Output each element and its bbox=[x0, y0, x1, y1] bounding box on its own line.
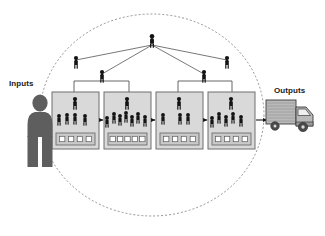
figure-leg-right bbox=[60, 122, 61, 125]
figure-torso bbox=[74, 60, 78, 65]
figure-leg-right bbox=[133, 123, 134, 126]
inputs-label: Inputs bbox=[9, 79, 34, 88]
figure-head bbox=[186, 113, 190, 117]
figure-leg-left bbox=[105, 124, 106, 127]
workstation-2-machine-1 bbox=[110, 136, 115, 141]
workstation-2-machine-2 bbox=[117, 136, 122, 141]
figure-leg-right bbox=[139, 120, 140, 123]
executive-figure bbox=[150, 34, 155, 48]
figure-torso bbox=[100, 74, 104, 79]
workstation-4-machine-4 bbox=[242, 136, 247, 141]
figure-torso bbox=[83, 117, 86, 122]
connector-exec-to-supervisor-left bbox=[102, 45, 152, 74]
workstation-2-machine-3 bbox=[125, 136, 130, 141]
figure-head bbox=[57, 114, 61, 118]
figure-leg-left bbox=[65, 121, 66, 124]
workstation-4-machine-3 bbox=[233, 136, 238, 141]
figure-head bbox=[65, 113, 69, 117]
figure-leg-left bbox=[231, 120, 232, 123]
figure-torso bbox=[210, 119, 213, 124]
workstation-1-machine-1 bbox=[59, 136, 64, 141]
figure-torso bbox=[186, 116, 189, 121]
figure-leg-right bbox=[228, 65, 229, 69]
figure-leg-right bbox=[128, 106, 129, 110]
workstation-4-machine-1 bbox=[215, 136, 220, 141]
figure-leg-right bbox=[181, 121, 182, 124]
figure-torso bbox=[224, 118, 227, 123]
figure-leg-right bbox=[76, 121, 77, 124]
figure-leg-right bbox=[213, 124, 214, 127]
figure-head bbox=[124, 111, 128, 115]
figure-leg-left bbox=[150, 44, 151, 48]
figure-head bbox=[74, 56, 78, 60]
delivery-truck-icon bbox=[266, 100, 313, 132]
figure-leg-left bbox=[73, 121, 74, 124]
figure-head bbox=[83, 114, 87, 118]
input-leg-left bbox=[28, 136, 39, 167]
figure-torso bbox=[229, 101, 233, 106]
figure-torso bbox=[73, 116, 76, 121]
figure-head bbox=[130, 115, 134, 119]
figure-leg-left bbox=[217, 120, 218, 123]
workstation-1-machine-4 bbox=[86, 136, 91, 141]
figure-leg-right bbox=[108, 124, 109, 127]
figure-leg-left bbox=[143, 123, 144, 126]
figure-torso bbox=[217, 115, 220, 120]
input-leg-right bbox=[42, 136, 53, 167]
figure-head bbox=[112, 112, 116, 116]
figure-leg-left bbox=[186, 121, 187, 124]
figure-leg-right bbox=[76, 106, 77, 110]
figure-leg-left bbox=[125, 106, 126, 110]
workstation-4-machine-2 bbox=[224, 136, 229, 141]
figure-torso bbox=[57, 117, 60, 122]
input-person-icon bbox=[28, 94, 53, 167]
figure-torso bbox=[125, 101, 129, 106]
connector-exec-to-supervisor-right bbox=[152, 45, 204, 74]
figure-leg-left bbox=[224, 123, 225, 126]
connector-exec-to-manager-far-left bbox=[76, 45, 152, 60]
figure-head bbox=[224, 115, 228, 119]
figure-leg-left bbox=[83, 122, 84, 125]
figure-leg-right bbox=[242, 123, 243, 126]
figure-leg-left bbox=[118, 122, 119, 125]
figure-leg-right bbox=[180, 106, 181, 110]
figure-head bbox=[100, 70, 104, 74]
figure-leg-left bbox=[112, 120, 113, 123]
workstation-3-machine-4 bbox=[190, 136, 195, 141]
figure-head bbox=[161, 113, 165, 117]
figure-leg-right bbox=[103, 79, 104, 83]
figure-torso bbox=[150, 38, 154, 44]
figure-torso bbox=[225, 60, 229, 65]
truck-wheel-rear-hub bbox=[274, 125, 277, 128]
figure-head bbox=[229, 97, 233, 101]
figure-head bbox=[136, 112, 140, 116]
figure-leg-left bbox=[161, 121, 162, 124]
figure-torso bbox=[65, 116, 68, 121]
figure-leg-left bbox=[177, 106, 178, 110]
figure-head bbox=[202, 70, 206, 74]
outputs-label: Outputs bbox=[274, 86, 305, 95]
figure-head bbox=[210, 116, 214, 120]
figure-leg-left bbox=[130, 123, 131, 126]
figure-leg-left bbox=[210, 124, 211, 127]
input-head bbox=[32, 94, 47, 111]
figure-leg-right bbox=[189, 121, 190, 124]
figure-head bbox=[150, 34, 155, 39]
figure-leg-left bbox=[124, 119, 125, 122]
figure-head bbox=[118, 114, 122, 118]
figure-leg-left bbox=[57, 122, 58, 125]
figure-leg-left bbox=[73, 106, 74, 110]
figure-head bbox=[178, 113, 182, 117]
input-torso bbox=[28, 112, 53, 137]
figure-torso bbox=[130, 118, 133, 123]
figure-leg-right bbox=[146, 123, 147, 126]
figure-head bbox=[125, 97, 129, 101]
workstation-2-machine-5 bbox=[140, 136, 145, 141]
figure-leg-left bbox=[100, 79, 101, 83]
figure-leg-right bbox=[164, 121, 165, 124]
figure-torso bbox=[143, 118, 146, 123]
figure-torso bbox=[124, 114, 127, 119]
figure-head bbox=[143, 115, 147, 119]
figure-leg-right bbox=[121, 122, 122, 125]
diagram-canvas: Inputs Outputs bbox=[0, 0, 325, 236]
